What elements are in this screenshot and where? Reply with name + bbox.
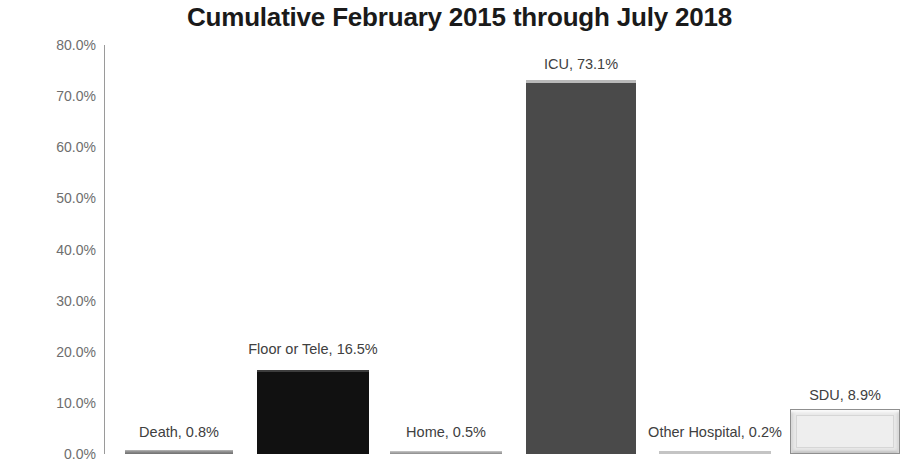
y-axis-tick-label: 70.0%: [4, 88, 96, 104]
data-label-sdu: SDU, 8.9%: [809, 387, 881, 403]
y-axis-tick-label: 0.0%: [4, 446, 96, 462]
bar-other-hospital[interactable]: [659, 451, 771, 454]
bar-home[interactable]: [390, 451, 502, 454]
data-label-icu: ICU, 73.1%: [544, 56, 618, 72]
y-axis-tick-label: 30.0%: [4, 293, 96, 309]
y-axis-tick-label: 80.0%: [4, 37, 96, 53]
y-axis-tick-label: 60.0%: [4, 139, 96, 155]
y-axis-tick-labels: 80.0%70.0%60.0%50.0%40.0%30.0%20.0%10.0%…: [0, 0, 96, 474]
chart-screenshot: Cumulative February 2015 through July 20…: [0, 0, 919, 474]
y-axis-tick-label: 20.0%: [4, 344, 96, 360]
data-label-home: Home, 0.5%: [406, 424, 486, 440]
y-axis-tick-label: 40.0%: [4, 242, 96, 258]
y-axis-tick-label: 10.0%: [4, 395, 96, 411]
bar-icu[interactable]: [526, 80, 636, 454]
bar-bevel-inner: [796, 415, 894, 449]
bar-floor-or-tele[interactable]: [257, 370, 369, 454]
data-label-other-hospital: Other Hospital, 0.2%: [648, 424, 782, 440]
data-label-floor-or-tele: Floor or Tele, 16.5%: [248, 341, 378, 357]
bar-death[interactable]: [125, 450, 233, 454]
bar-sdu[interactable]: [790, 409, 900, 455]
plot-area: Death, 0.8%Floor or Tele, 16.5%Home, 0.5…: [104, 45, 919, 454]
y-axis-tick-label: 50.0%: [4, 190, 96, 206]
data-label-death: Death, 0.8%: [139, 424, 219, 440]
chart-title: Cumulative February 2015 through July 20…: [0, 2, 919, 33]
